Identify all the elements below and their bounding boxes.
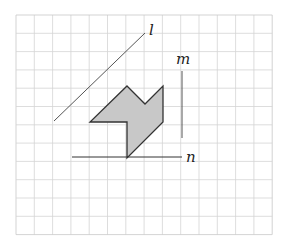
reflection-diagram: lmn [0,0,286,242]
shaded-polygon [90,86,163,158]
line-label-m: m [176,50,190,68]
line-label-l: l [149,21,154,39]
line-label-n: n [186,148,196,166]
